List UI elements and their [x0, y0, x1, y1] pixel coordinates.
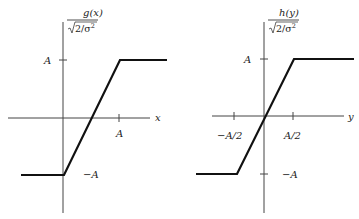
figure-canvas: A −A A x g(x) 2/σ2 A −A −A/2 A/2 y h(y) [0, 0, 359, 219]
fraction-label-left: g(x) 2/σ2 [67, 7, 103, 34]
plot-g: A −A A x g(x) 2/σ2 [8, 7, 167, 213]
label-y-negA-right: −A [282, 169, 298, 180]
numerator-h: h(y) [279, 7, 299, 18]
xlabel-left: x [155, 112, 161, 123]
denominator-g: 2/σ2 [75, 22, 95, 34]
plot-h: A −A −A/2 A/2 y h(y) 2/σ2 [196, 7, 354, 213]
label-x-half-right: A/2 [283, 130, 301, 141]
label-y-A-right: A [243, 54, 251, 65]
label-y-A-left: A [43, 55, 51, 66]
fraction-label-right: h(y) 2/σ2 [268, 7, 299, 34]
label-y-negA-left: −A [83, 169, 99, 180]
label-x-negHalf-right: −A/2 [217, 130, 242, 141]
xlabel-right: y [347, 111, 354, 122]
label-x-A-left: A [115, 128, 123, 139]
numerator-g: g(x) [83, 7, 103, 18]
denominator-h: 2/σ2 [276, 22, 296, 34]
